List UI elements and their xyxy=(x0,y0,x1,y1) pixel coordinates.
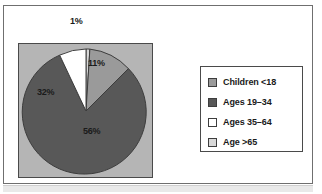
slice-label-32-percent: 32% xyxy=(37,87,54,97)
legend-item-ages-35-64: Ages 35–64 xyxy=(208,113,302,131)
pie-svg xyxy=(21,46,151,176)
pie-plot-area xyxy=(18,43,153,178)
footer-strip xyxy=(3,185,313,192)
slice-label-1-percent: 1% xyxy=(70,16,83,26)
legend-item-age-over-65: Age >65 xyxy=(208,133,302,151)
slice-label-11-percent: 11% xyxy=(88,58,105,68)
legend-item-ages-19-34: Ages 19–34 xyxy=(208,93,302,111)
legend-swatch-icon xyxy=(208,118,217,127)
legend-swatch-icon xyxy=(208,78,217,87)
slice-label-56-percent: 56% xyxy=(83,126,100,136)
legend-item-label: Children <18 xyxy=(223,77,276,87)
legend-item-children-under-18: Children <18 xyxy=(208,73,302,91)
pie-graphic xyxy=(21,46,151,176)
legend-item-label: Ages 19–34 xyxy=(223,97,272,107)
legend-swatch-icon xyxy=(208,138,217,147)
legend-item-label: Age >65 xyxy=(223,137,257,147)
legend-swatch-icon xyxy=(208,98,217,107)
pie-chart-figure: 1% 11% 32% 56% Children <18 Ages 19–34 A… xyxy=(0,0,322,194)
chart-legend: Children <18 Ages 19–34 Ages 35–64 Age >… xyxy=(200,66,303,152)
legend-item-label: Ages 35–64 xyxy=(223,117,272,127)
